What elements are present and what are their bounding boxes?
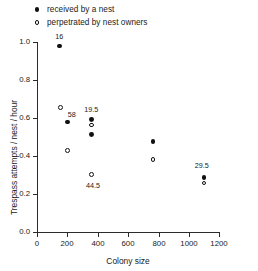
y-tick-label: 1.0 bbox=[8, 37, 30, 46]
y-tick-label: 0.8 bbox=[8, 75, 30, 84]
x-tick-label: 400 bbox=[83, 239, 113, 248]
x-tick-label: 800 bbox=[144, 239, 174, 248]
y-tick-mark bbox=[33, 194, 37, 195]
point-annotation: 16 bbox=[44, 32, 74, 41]
data-point-perpetrated bbox=[202, 181, 207, 186]
point-annotation: 29.5 bbox=[187, 161, 217, 170]
x-tick-label: 600 bbox=[113, 239, 143, 248]
plot-area: 1.0 0.8 0.6 0.4 0.2 0.0 0 200 400 600 80… bbox=[0, 0, 258, 271]
data-point-perpetrated bbox=[65, 148, 70, 153]
x-tick-label: 1200 bbox=[204, 239, 234, 248]
x-axis-title: Colony size bbox=[68, 256, 188, 266]
x-tick-mark bbox=[98, 233, 99, 237]
y-tick-label: 0.0 bbox=[8, 227, 30, 236]
y-tick-mark bbox=[33, 118, 37, 119]
data-point-received bbox=[65, 120, 70, 125]
x-tick-label: 1000 bbox=[174, 239, 204, 248]
y-tick-mark bbox=[33, 42, 37, 43]
data-point-received bbox=[89, 117, 94, 122]
y-tick-mark bbox=[33, 80, 37, 81]
x-tick-label: 0 bbox=[22, 239, 52, 248]
y-tick-mark bbox=[33, 156, 37, 157]
data-point-perpetrated bbox=[89, 172, 94, 177]
data-point-received bbox=[151, 139, 156, 144]
data-point-perpetrated bbox=[89, 123, 94, 128]
y-axis-title: Trespass attempts / nest / hour bbox=[9, 100, 19, 215]
point-annotation: 19.5 bbox=[76, 105, 106, 114]
x-tick-mark bbox=[219, 233, 220, 237]
x-tick-mark bbox=[128, 233, 129, 237]
x-tick-mark bbox=[67, 233, 68, 237]
data-point-received bbox=[57, 44, 62, 49]
data-point-perpetrated bbox=[151, 157, 156, 162]
y-axis-line bbox=[37, 42, 38, 233]
data-point-received bbox=[202, 175, 207, 180]
data-point-received bbox=[89, 132, 94, 137]
scatter-chart-figure: received by a nest perpetrated by nest o… bbox=[0, 0, 258, 271]
x-tick-mark bbox=[37, 233, 38, 237]
x-tick-mark bbox=[189, 233, 190, 237]
x-tick-label: 200 bbox=[52, 239, 82, 248]
x-tick-mark bbox=[159, 233, 160, 237]
point-annotation: 44.5 bbox=[78, 181, 108, 190]
